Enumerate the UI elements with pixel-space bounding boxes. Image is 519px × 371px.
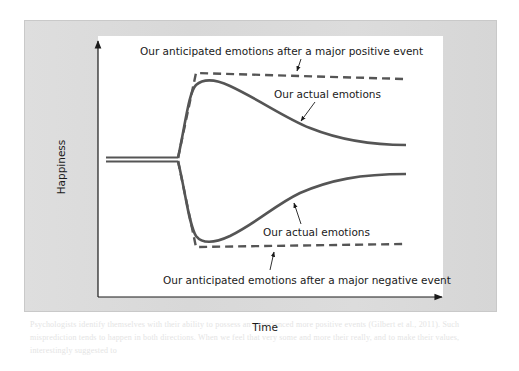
y-axis-label: Happiness bbox=[55, 140, 67, 195]
x-axis-label: Time bbox=[252, 321, 278, 333]
label-actual-positive: Our actual emotions bbox=[274, 88, 381, 100]
label-anticipated-negative: Our anticipated emotions after a major n… bbox=[163, 274, 451, 286]
figure-page: Psychologists identify themselves with t… bbox=[0, 0, 519, 371]
pointer-arrow-actual-negative bbox=[294, 203, 301, 224]
pointer-arrow-actual-positive bbox=[301, 102, 315, 121]
label-anticipated-positive: Our anticipated emotions after a major p… bbox=[140, 45, 423, 57]
label-actual-negative: Our actual emotions bbox=[263, 226, 370, 238]
pointer-arrow-anticipated-negative bbox=[270, 252, 274, 270]
pointer-arrow-anticipated-positive bbox=[297, 59, 301, 71]
anticipated-positive-line bbox=[178, 73, 405, 158]
baseline-double-line bbox=[106, 158, 178, 162]
